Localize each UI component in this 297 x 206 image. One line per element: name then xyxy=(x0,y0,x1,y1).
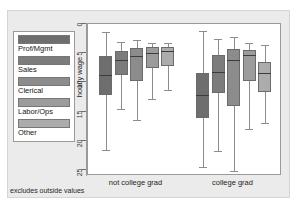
chart-figure: Prof/Mgmt Sales Clerical Labor/Ops Other… xyxy=(7,10,290,198)
cap-upper xyxy=(261,45,269,46)
cap-lower xyxy=(230,171,238,172)
legend-swatch-prof-mgmt xyxy=(18,35,70,44)
whisker-upper xyxy=(203,31,204,73)
box-iqr xyxy=(115,51,128,76)
whisker-upper xyxy=(137,40,138,48)
group-label-not-college-grad: not college grad xyxy=(87,178,184,187)
y-tick-mark xyxy=(81,23,86,24)
box-iqr xyxy=(227,49,240,106)
chart-caption: excludes outside values xyxy=(10,187,84,194)
cap-upper xyxy=(102,32,110,33)
cap-lower xyxy=(245,129,253,130)
legend-swatch-labor-ops xyxy=(18,98,70,107)
whisker-upper xyxy=(234,37,235,48)
cap-upper xyxy=(245,43,253,44)
median-line xyxy=(212,72,225,73)
box-iqr xyxy=(161,47,174,66)
legend-item-prof-mgmt[interactable]: Prof/Mgmt xyxy=(18,35,70,54)
legend-label-prof-mgmt: Prof/Mgmt xyxy=(18,44,70,54)
legend-swatch-clerical xyxy=(18,77,70,86)
cap-upper xyxy=(199,31,207,32)
whisker-upper xyxy=(249,43,250,50)
median-line xyxy=(130,56,143,57)
legend-label-sales: Sales xyxy=(18,65,70,75)
legend-label-other: Other xyxy=(18,128,70,138)
whisker-lower xyxy=(234,106,235,171)
group-label-college-grad: college grad xyxy=(184,178,281,187)
legend-item-sales[interactable]: Sales xyxy=(18,56,70,75)
whisker-lower xyxy=(137,81,138,120)
whisker-lower xyxy=(249,81,250,130)
legend-swatch-other xyxy=(18,119,70,128)
cap-upper xyxy=(133,40,141,41)
legend-item-labor-ops[interactable]: Labor/Ops xyxy=(18,98,70,117)
cap-upper xyxy=(230,37,238,38)
median-line xyxy=(196,95,209,96)
cap-lower xyxy=(199,167,207,168)
legend-item-other[interactable]: Other xyxy=(18,119,70,138)
box-iqr xyxy=(258,62,271,92)
whisker-lower xyxy=(121,75,122,108)
cap-upper xyxy=(214,39,222,40)
median-line xyxy=(161,51,174,52)
whisker-lower xyxy=(152,68,153,98)
median-line xyxy=(99,75,112,76)
whisker-upper xyxy=(121,42,122,51)
cap-upper xyxy=(148,43,156,44)
cap-lower xyxy=(261,123,269,124)
y-tick-mark xyxy=(81,140,86,141)
whisker-lower xyxy=(168,66,169,91)
cap-lower xyxy=(164,90,172,91)
legend-label-labor-ops: Labor/Ops xyxy=(18,107,70,117)
cap-upper xyxy=(164,43,172,44)
whisker-upper xyxy=(265,45,266,62)
whisker-upper xyxy=(218,39,219,55)
y-tick-mark xyxy=(81,169,86,170)
box-iqr xyxy=(212,55,225,93)
cap-lower xyxy=(102,150,110,151)
median-line xyxy=(146,53,159,54)
legend-swatch-sales xyxy=(18,56,70,65)
cap-lower xyxy=(214,151,222,152)
whisker-lower xyxy=(218,93,219,151)
median-line xyxy=(115,60,128,61)
y-tick-mark xyxy=(81,52,86,53)
whisker-lower xyxy=(203,118,204,168)
plot-area xyxy=(87,23,281,175)
legend-label-clerical: Clerical xyxy=(18,86,70,96)
median-line xyxy=(243,55,256,56)
whisker-lower xyxy=(265,92,266,123)
cap-lower xyxy=(133,120,141,121)
cap-upper xyxy=(117,42,125,43)
y-tick-mark xyxy=(81,81,86,82)
median-line xyxy=(258,73,271,74)
box-iqr xyxy=(130,48,143,81)
cap-lower xyxy=(148,99,156,100)
median-line xyxy=(227,60,240,61)
legend-item-clerical[interactable]: Clerical xyxy=(18,77,70,96)
y-axis-ticks: 0510152025 xyxy=(64,11,80,199)
box-iqr xyxy=(146,47,159,68)
y-tick-mark xyxy=(81,111,86,112)
whisker-upper xyxy=(106,32,107,55)
whisker-lower xyxy=(106,95,107,149)
cap-lower xyxy=(117,109,125,110)
